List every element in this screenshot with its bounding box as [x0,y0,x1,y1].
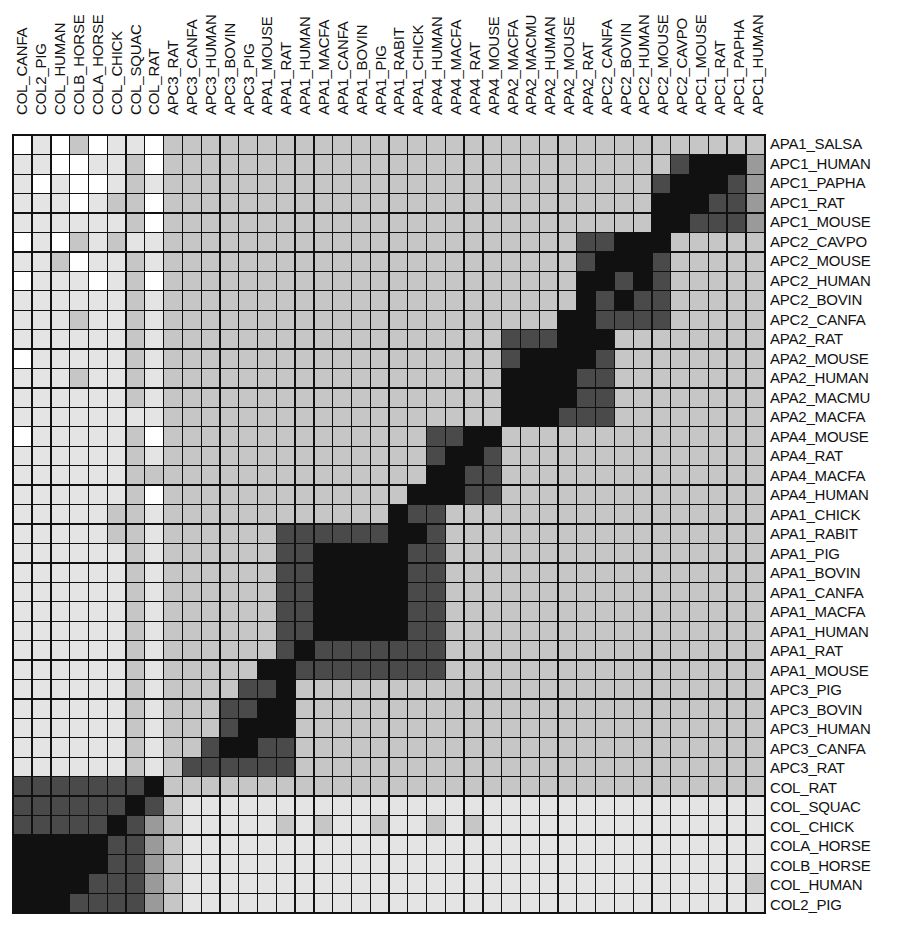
heatmap-cell [202,816,219,834]
heatmap-cell [277,622,294,640]
row-label: APA1_PIG [770,544,840,564]
heatmap-cell [164,855,181,873]
heatmap-cell [671,874,688,892]
heatmap-cell [653,700,670,718]
heatmap-cell [70,155,87,173]
heatmap-cell [521,466,538,484]
heatmap-cell [52,427,69,445]
row-label: APC2_HUMAN [770,271,871,291]
heatmap-cell [145,680,162,698]
heatmap-cell [465,253,482,271]
heatmap-cell [52,486,69,504]
heatmap-cell [728,816,745,834]
heatmap-cell [183,466,200,484]
heatmap-cell [333,447,350,465]
heatmap-cell [277,797,294,815]
heatmap-cell [371,311,388,329]
heatmap-cell [70,408,87,426]
heatmap-cell [728,758,745,776]
heatmap-cell [371,447,388,465]
heatmap-cell [709,738,726,756]
heatmap-cell [164,641,181,659]
heatmap-cell [484,350,501,368]
heatmap-cell [296,874,313,892]
heatmap-cell [164,525,181,543]
heatmap-cell [390,836,407,854]
heatmap-cell [333,233,350,251]
heatmap-cell [671,233,688,251]
heatmap-cell [559,836,576,854]
heatmap-cell [540,661,557,679]
heatmap-cell [596,797,613,815]
heatmap-cell [653,253,670,271]
column-label: APC2_HUMAN [634,0,653,132]
heatmap-cell [52,894,69,912]
heatmap-cell [333,408,350,426]
heatmap-cell [183,214,200,232]
heatmap-cell [164,758,181,776]
heatmap-cell [446,175,463,193]
heatmap-cell [183,700,200,718]
heatmap-cell [521,486,538,504]
heatmap-cell [202,797,219,815]
heatmap-cell [145,291,162,309]
heatmap-cell [371,155,388,173]
heatmap-cell [371,136,388,154]
heatmap-cell [221,311,238,329]
heatmap-cell [277,836,294,854]
heatmap-cell [333,564,350,582]
heatmap-cell [747,253,764,271]
heatmap-cell [277,700,294,718]
heatmap-cell [615,758,632,776]
heatmap-cell [502,408,520,426]
row-label: APC2_MOUSE [770,251,871,271]
heatmap-cell [315,136,332,154]
heatmap-cell [408,738,425,756]
heatmap-cell [277,155,294,173]
heatmap-cell [145,311,162,329]
heatmap-cell [277,175,294,193]
heatmap-cell [277,389,294,407]
heatmap-cell [221,719,238,737]
heatmap-cell [577,311,594,329]
heatmap-cell [52,272,69,290]
heatmap-cell [559,369,576,387]
heatmap-cell [202,641,219,659]
heatmap-cell [14,136,31,154]
heatmap-cell [747,797,764,815]
column-label: APA4_HUMAN [427,0,446,132]
heatmap-cell [221,894,238,912]
heatmap-cell [221,233,238,251]
heatmap-cell [33,505,50,523]
heatmap-cell [70,272,87,290]
heatmap-cell [127,330,144,348]
heatmap-cell [145,408,162,426]
heatmap-cell [502,330,520,348]
heatmap-cell [296,466,313,484]
heatmap-cell [408,855,425,873]
heatmap-cell [296,836,313,854]
heatmap-cell [315,214,332,232]
heatmap-cell [577,194,594,212]
heatmap-cell [258,486,276,504]
heatmap-cell [333,214,350,232]
heatmap-cell [690,486,707,504]
heatmap-cell [690,330,707,348]
heatmap-cell [577,622,594,640]
heatmap-cell [70,680,87,698]
heatmap-cell [634,330,651,348]
heatmap-cell [709,719,726,737]
heatmap-cell [540,466,557,484]
heatmap-cell [709,544,726,562]
column-label: APC1_MOUSE [691,0,710,132]
heatmap-cell [709,894,726,912]
heatmap-cell [484,466,501,484]
row-label: APC2_CANFA [770,310,866,330]
heatmap-cell [502,700,520,718]
heatmap-cell [446,777,463,795]
heatmap-cell [145,583,162,601]
heatmap-cell [296,797,313,815]
heatmap-cell [408,466,425,484]
column-label-text: APA1_CANFA [334,21,349,115]
heatmap-cell [296,408,313,426]
